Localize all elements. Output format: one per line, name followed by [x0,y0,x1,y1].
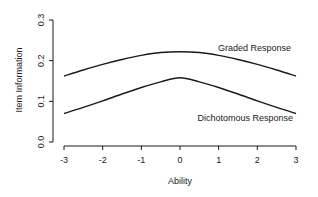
y-tick-label: 0.1 [36,95,46,108]
axes: 0.00.10.20.3-3-2-10123 [36,14,299,165]
x-tick-label: -2 [99,155,107,165]
dichotomous-response-label: Dichotomous Response [197,113,293,123]
y-tick-label: 0.0 [36,136,46,149]
curves [64,52,296,114]
graded-response-label: Graded Response [218,43,291,53]
item-information-chart: 0.00.10.20.3-3-2-10123 Graded Response D… [0,0,318,197]
x-tick-label: 2 [255,155,260,165]
x-tick-label: -1 [137,155,145,165]
x-tick-label: -3 [60,155,68,165]
x-tick-label: 0 [177,155,182,165]
graded-response-curve [64,52,296,76]
dichotomous-response-curve [64,78,296,114]
x-tick-label: 1 [216,155,221,165]
y-tick-label: 0.2 [36,54,46,67]
y-tick-label: 0.3 [36,14,46,27]
x-tick-label: 3 [293,155,298,165]
y-axis-label: Item Information [14,47,24,112]
x-axis-label: Ability [168,176,193,186]
